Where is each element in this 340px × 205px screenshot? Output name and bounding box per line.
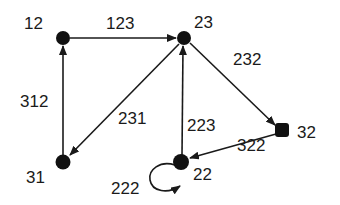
node-label-32: 32 — [297, 123, 316, 142]
edge-label-312: 312 — [20, 92, 48, 111]
node-31 — [56, 155, 71, 170]
node-label-31: 31 — [26, 168, 45, 187]
edge-label-232: 232 — [233, 50, 261, 69]
edge-22-23 — [182, 46, 183, 155]
edge-label-123: 123 — [106, 14, 134, 33]
node-23 — [177, 31, 191, 45]
node-label-12: 12 — [24, 14, 43, 33]
edge-23-31 — [70, 44, 179, 155]
node-12 — [56, 31, 70, 45]
node-label-23: 23 — [194, 13, 213, 32]
node-22 — [173, 154, 189, 170]
node-label-22: 22 — [193, 165, 212, 184]
edge-label-223: 223 — [187, 116, 215, 135]
graph-canvas: 12 23 32 22 31 123 232 231 223 322 312 2… — [0, 0, 340, 205]
edge-label-231: 231 — [118, 109, 146, 128]
edge-label-222: 222 — [111, 179, 139, 198]
node-32 — [275, 123, 289, 137]
edge-label-322: 322 — [237, 136, 265, 155]
